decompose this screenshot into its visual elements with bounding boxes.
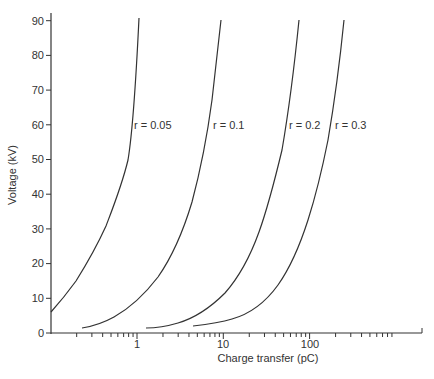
- curve-label-r-0.1: r = 0.1: [213, 119, 245, 131]
- svg-text:30: 30: [32, 223, 44, 235]
- curve-r-0.1: [82, 20, 221, 328]
- y-tick-labels: 0 10 20 30 40 50 60 70 80 90: [32, 15, 44, 339]
- chart: 0 10 20 30 40 50 60 70 80 90 1 10 100 Ch…: [0, 0, 434, 379]
- y-axis-label: Voltage (kV): [6, 145, 18, 205]
- curve-label-r-0.05: r = 0.05: [134, 119, 172, 131]
- x-tick-labels: 1 10 100: [134, 338, 319, 350]
- svg-text:90: 90: [32, 15, 44, 27]
- curve-r-0.2: [146, 20, 299, 328]
- svg-text:50: 50: [32, 153, 44, 165]
- x-ticks: [77, 333, 392, 339]
- svg-text:80: 80: [32, 49, 44, 61]
- x-axis-label: Charge transfer (pC): [218, 352, 319, 364]
- svg-text:0: 0: [38, 327, 44, 339]
- svg-text:1: 1: [134, 338, 140, 350]
- curve-label-r-0.2: r = 0.2: [289, 119, 321, 131]
- curve-label-r-0.3: r = 0.3: [335, 119, 367, 131]
- y-ticks: [46, 21, 51, 333]
- svg-text:10: 10: [217, 338, 229, 350]
- svg-text:40: 40: [32, 188, 44, 200]
- svg-text:100: 100: [301, 338, 319, 350]
- svg-text:60: 60: [32, 119, 44, 131]
- svg-text:20: 20: [32, 257, 44, 269]
- svg-text:10: 10: [32, 292, 44, 304]
- svg-text:70: 70: [32, 84, 44, 96]
- curve-r-0.05: [51, 18, 139, 312]
